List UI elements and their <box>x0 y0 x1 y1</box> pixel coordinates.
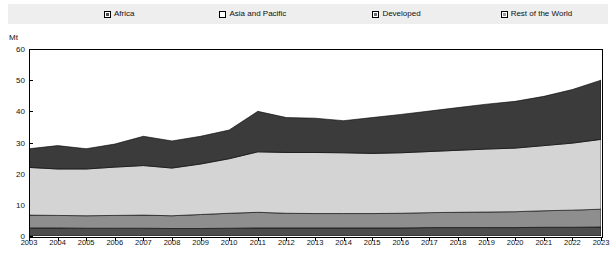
y-axis-labels: 0102030405060 <box>0 0 25 256</box>
x-axis-tick-mark <box>515 237 516 241</box>
x-axis-tick-mark <box>572 237 573 241</box>
legend-label: Asia and Pacific <box>229 9 286 19</box>
x-axis-tick-mark <box>544 237 545 241</box>
legend-swatch-icon <box>219 11 226 18</box>
x-axis-tick-mark <box>201 237 202 241</box>
x-axis-tick-mark <box>29 237 30 241</box>
legend-label: Rest of the World <box>511 9 573 19</box>
legend-label: Africa <box>114 9 134 19</box>
legend-label: Developed <box>382 9 420 19</box>
x-axis-tick-mark <box>172 237 173 241</box>
y-axis-tick-label: 60 <box>16 45 25 54</box>
legend-item-africa[interactable]: Africa <box>104 4 134 24</box>
plot-area <box>29 49 601 236</box>
x-axis-tick-mark <box>344 237 345 241</box>
x-axis-tick-mark <box>286 237 287 241</box>
x-axis-tick-mark <box>601 237 602 241</box>
legend-swatch-icon <box>501 11 508 18</box>
x-axis-tick-mark <box>401 237 402 241</box>
y-axis-tick-label: 50 <box>16 76 25 85</box>
y-axis-tick-label: 20 <box>16 170 25 179</box>
x-axis-tick-mark <box>258 237 259 241</box>
plot-frame-border <box>29 49 603 238</box>
x-axis-tick-mark <box>115 237 116 241</box>
x-axis-tick-mark <box>143 237 144 241</box>
x-axis-tick-mark <box>86 237 87 241</box>
x-axis-tick-mark <box>487 237 488 241</box>
legend-item-asia-and-pacific[interactable]: Asia and Pacific <box>219 4 286 24</box>
legend-item-developed[interactable]: Developed <box>372 4 420 24</box>
chart-page: Africa Asia and Pacific Developed Rest o… <box>0 0 616 256</box>
x-axis-tick-mark <box>372 237 373 241</box>
legend-item-rest-of-the-world[interactable]: Rest of the World <box>501 4 573 24</box>
legend-swatch-icon <box>104 11 111 18</box>
x-axis-labels: 2003200420052006200720082009201020112012… <box>0 238 616 252</box>
x-axis-tick-mark <box>429 237 430 241</box>
legend-swatch-icon <box>372 11 379 18</box>
x-axis-tick-mark <box>58 237 59 241</box>
x-axis-tick-mark <box>229 237 230 241</box>
y-axis-tick-label: 40 <box>16 107 25 116</box>
chart-legend: Africa Asia and Pacific Developed Rest o… <box>8 4 608 24</box>
y-axis-tick-label: 30 <box>16 139 25 148</box>
x-axis-tick-mark <box>315 237 316 241</box>
x-axis-tick-mark <box>458 237 459 241</box>
y-axis-tick-label: 10 <box>16 201 25 210</box>
